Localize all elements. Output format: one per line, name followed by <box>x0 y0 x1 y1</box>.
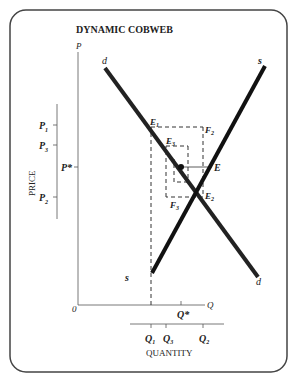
supply-label-bottom: s <box>124 272 129 283</box>
q-star-label: Q* <box>177 309 190 320</box>
price-label: PRICE <box>27 170 37 196</box>
demand-label-bottom: d <box>256 276 262 287</box>
point-e: E <box>213 162 221 173</box>
point-f3: F3 <box>169 200 179 211</box>
point-e3: E3 <box>165 136 175 147</box>
cobweb-diagram: DYNAMIC COBWEB P Q 0 P1 P3 P* P2 PRICE Q… <box>0 0 296 377</box>
origin-label: 0 <box>72 304 77 314</box>
quantity-label: QUANTITY <box>146 348 193 358</box>
q2-label: Q2 <box>199 333 209 345</box>
demand-curve <box>105 68 258 277</box>
y-axis-label: P <box>75 41 82 51</box>
point-e2: E2 <box>204 191 214 202</box>
point-e1: E1 <box>149 117 159 128</box>
p1-label: P1 <box>39 120 48 133</box>
p2-label: P2 <box>39 192 48 205</box>
q1-label: Q1 <box>145 333 155 345</box>
frame <box>10 10 287 372</box>
q3-label: Q3 <box>163 333 173 345</box>
equilibrium-point <box>178 164 184 170</box>
p-star-label: P* <box>61 162 73 173</box>
supply-label-top: s <box>257 55 262 66</box>
point-f2: F2 <box>204 125 214 136</box>
chart-title: DYNAMIC COBWEB <box>76 24 173 35</box>
demand-label-top: d <box>102 55 108 66</box>
supply-curve <box>152 66 265 273</box>
p3-label: P3 <box>39 140 48 153</box>
x-axis-label: Q <box>207 300 214 310</box>
cobweb-path <box>151 127 203 305</box>
